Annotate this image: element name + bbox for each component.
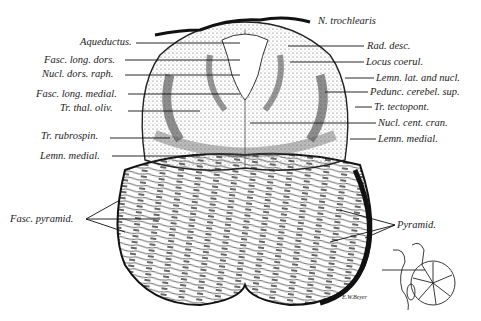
- label-rad-desc: Rad. desc.: [367, 41, 410, 52]
- label-nucl-cent-cran: Nucl. cent. cran.: [378, 118, 448, 129]
- label-lemn-medial-left: Lemn. medial.: [40, 151, 100, 162]
- label-pedunc-cerebel-sup: Pedunc. cerebel. sup.: [370, 87, 460, 98]
- signature: E.W.Beyer: [342, 294, 367, 300]
- label-tr-rubrospin: Tr. rubrospin.: [41, 131, 98, 142]
- basis-pontis: [118, 154, 372, 305]
- label-fasc-long-medial: Fasc. long. medial.: [36, 89, 117, 100]
- label-lemn-medial-right: Lemn. medial.: [378, 134, 438, 145]
- label-fasc-pyramid: Fasc. pyramid.: [10, 214, 73, 225]
- label-lemn-lat-nucl: Lemn. lat. and nucl.: [376, 73, 460, 84]
- label-n-trochlearis: N. trochlearis: [318, 16, 376, 27]
- label-pyramid: Pyramid.: [397, 220, 436, 231]
- label-tr-thal-oliv: Tr. thal. oliv.: [60, 103, 113, 114]
- label-nucl-dors-raph: Nucl. dors. raph.: [42, 69, 113, 80]
- label-tr-tectopont: Tr. tectopont.: [374, 102, 429, 113]
- inset-brainstem-diagram: [382, 243, 455, 310]
- label-aqueductus: Aqueductus.: [80, 37, 132, 48]
- label-locus-coerul: Locus coerul.: [366, 57, 423, 68]
- label-fasc-long-dors: Fasc. long. dors.: [44, 55, 115, 66]
